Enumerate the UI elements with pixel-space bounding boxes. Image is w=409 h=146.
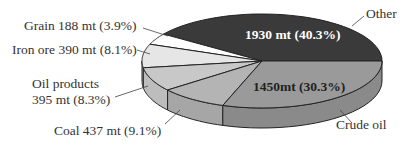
- label-crude-oil: Crude oil: [336, 117, 387, 132]
- label-coal: Coal 437 mt (9.1%): [54, 123, 161, 138]
- leader-line: [352, 16, 364, 26]
- inner-label-other: 1930 mt (40.3%): [245, 27, 341, 43]
- inner-label-crude-oil: 1450mt (30.3%): [253, 79, 345, 95]
- label-oil-products-line2: 395 mt (8.3%): [32, 92, 110, 107]
- leader-line: [143, 28, 168, 36]
- label-iron-ore: Iron ore 390 mt (8.1%): [12, 42, 137, 57]
- label-other: Other: [366, 6, 397, 21]
- label-grain: Grain 188 mt (3.9%): [24, 18, 136, 33]
- label-oil-products-line1: Oil products: [32, 76, 99, 91]
- leader-line: [115, 86, 148, 97]
